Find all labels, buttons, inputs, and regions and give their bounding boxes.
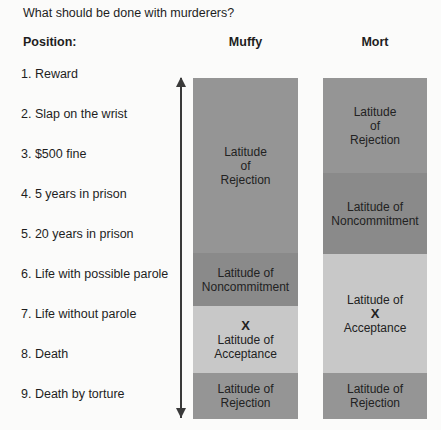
mort-latitude-acceptance: Latitude of X Acceptance (323, 254, 427, 373)
muffy-latitude-noncommitment: Latitude of Noncommitment (193, 253, 298, 306)
label-line: Rejection (350, 396, 400, 410)
muffy-latitude-rejection-bottom: Latitude of Rejection (193, 373, 298, 419)
position-item: 4. 5 years in prison (21, 187, 127, 201)
mort-latitude-noncommitment: Latitude of Noncommitment (323, 173, 427, 254)
label-line: Rejection (220, 173, 270, 187)
mort-column: Latitude of Rejection Latitude of Noncom… (323, 78, 427, 419)
muffy-header: Muffy (193, 35, 298, 49)
position-item: 9. Death by torture (21, 387, 125, 401)
label-line: Latitude of (217, 333, 273, 347)
position-item: 2. Slap on the wrist (21, 107, 127, 121)
arrow-down-icon (176, 408, 186, 418)
mort-header: Mort (323, 35, 427, 49)
label-line: Noncommitment (331, 214, 418, 228)
label-line: Noncommitment (202, 280, 289, 294)
label-line: of (240, 159, 250, 173)
position-item: 3. $500 fine (21, 147, 86, 161)
position-item: 5. 20 years in prison (21, 227, 134, 241)
muffy-column: Latitude of Rejection Latitude of Noncom… (193, 78, 298, 419)
position-header: Position: (23, 35, 76, 49)
label-line: Latitude of (217, 382, 273, 396)
scale-arrow-line (180, 78, 182, 418)
mort-latitude-rejection-bottom: Latitude of Rejection (323, 373, 427, 419)
position-item: 7. Life without parole (21, 307, 136, 321)
anchor-x-mark: X (371, 307, 380, 321)
mort-latitude-rejection-top: Latitude of Rejection (323, 78, 427, 173)
question-title: What should be done with murderers? (23, 6, 234, 20)
label-line: of (370, 119, 380, 133)
label-line: Latitude (354, 105, 397, 119)
label-line: Latitude (224, 145, 267, 159)
muffy-latitude-rejection-top: Latitude of Rejection (193, 78, 298, 253)
anchor-x-mark: X (241, 319, 250, 333)
label-line: Latitude of (347, 293, 403, 307)
muffy-latitude-acceptance: X Latitude of Acceptance (193, 306, 298, 373)
label-line: Latitude of (217, 266, 273, 280)
label-line: Rejection (220, 396, 270, 410)
position-item: 1. Reward (21, 67, 78, 81)
label-line: Latitude of (347, 200, 403, 214)
label-line: Acceptance (214, 347, 277, 361)
position-item: 8. Death (21, 347, 68, 361)
arrow-up-icon (176, 77, 186, 87)
label-line: Latitude of (347, 382, 403, 396)
position-item: 6. Life with possible parole (21, 267, 168, 281)
label-line: Acceptance (344, 321, 407, 335)
label-line: Rejection (350, 133, 400, 147)
